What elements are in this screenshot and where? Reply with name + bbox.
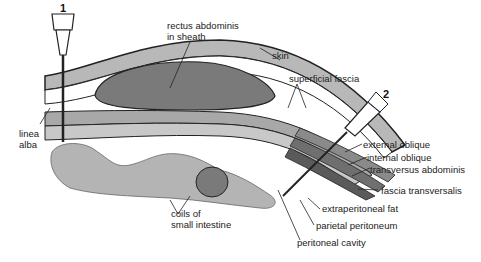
label-internal-oblique: internal oblique (367, 152, 431, 163)
intestine-cross-section (196, 167, 228, 197)
label-external-oblique: external oblique (363, 139, 430, 150)
label-skin: skin (272, 50, 289, 61)
label-extraperitoneal-fat: extraperitoneal fat (322, 203, 398, 214)
label-superficial-fascia: superficial fascia (289, 73, 359, 84)
label-parietal-peritoneum: parietal peritoneum (316, 220, 397, 231)
label-fascia-transversalis: fascia transversalis (381, 185, 462, 196)
label-coils-of: coils of (171, 208, 201, 219)
needle-2-number: 2 (383, 88, 389, 100)
label-transversus-abdominis: transversus abdominis (370, 164, 465, 175)
label-in-sheath: in sheath (167, 31, 206, 42)
label-alba: alba (19, 139, 37, 150)
label-peritoneal-cavity: peritoneal cavity (297, 237, 366, 248)
label-small-intestine: small intestine (171, 219, 231, 230)
small-intestine (51, 144, 275, 209)
label-rectus-abdominis: rectus abdominis (167, 20, 239, 31)
abdominal-wall-diagram (0, 0, 481, 262)
needle-1-number: 1 (60, 2, 66, 14)
label-linea: linea (19, 128, 39, 139)
